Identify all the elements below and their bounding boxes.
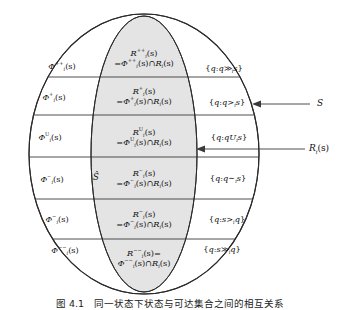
outer-set-callout-label: S	[317, 99, 323, 108]
equals-sign: =	[114, 58, 121, 68]
r-argument: (s)	[145, 168, 156, 178]
r-argument: (s)	[161, 178, 172, 188]
intersection-operator: ∩	[146, 178, 153, 188]
phi-symbol: Φ	[48, 61, 55, 71]
center-line-2: =Φ+i(s)∩Ri(s)	[116, 97, 171, 106]
s-hat-label: Ŝ	[93, 173, 99, 182]
close-brace: }	[240, 97, 245, 107]
phi-superscript: −−	[58, 244, 67, 250]
equals-sign: =	[116, 137, 123, 147]
phi-argument: (s)	[55, 92, 66, 102]
phi-superscript: +	[130, 95, 134, 101]
phi-symbol: Φ	[42, 92, 49, 102]
phi-symbol: Φ	[40, 174, 47, 184]
close-brace: }	[241, 173, 246, 183]
phi-superscript: −	[52, 213, 56, 219]
close-brace: }	[238, 63, 243, 73]
center-line-1: R+i(s)	[133, 86, 156, 96]
row-center-formula-dispreference: R−i(s) =Φ−i(s)∩Ri(s)	[116, 210, 171, 229]
row-right-set-strong-preference: {q:q≫is}	[205, 64, 243, 73]
center-line-1: RUi(s)	[133, 127, 156, 137]
r-argument: (s)	[163, 58, 174, 68]
intersection-operator: ∩	[146, 219, 153, 229]
center-line-2: Φ−−i(s)∩Ri(s)	[118, 259, 171, 268]
row-center-formula-strong-dispreference: R−−i(s)= Φ−−i(s)∩Ri(s)	[118, 249, 171, 268]
phi-argument: (s)	[53, 174, 64, 184]
phi-superscript: U	[45, 131, 49, 137]
intersection-operator: ∩	[146, 96, 153, 106]
r-superscript: −	[139, 208, 143, 214]
row-center-formula-uncertain: RUi(s) =ΦUi(s)∩Ri(s)	[116, 128, 171, 147]
phi-argument: (s)	[51, 132, 62, 142]
r-argument: (s)	[143, 248, 154, 258]
row-left-label-uncertain: ΦUi(s)	[38, 133, 61, 142]
row-left-label-strong-dispreference: Φ−−i(s)	[51, 246, 78, 255]
row-right-set-uncertain: {q:qUis}	[211, 133, 247, 142]
outer-callout-arrow	[252, 101, 310, 108]
r-argument: (s)	[161, 96, 172, 106]
close-brace: }	[236, 244, 241, 254]
phi-superscript: ++	[55, 60, 64, 66]
r-argument: (s)	[145, 127, 156, 137]
phi-superscript: +	[49, 91, 53, 97]
phi-symbol: Φ	[123, 96, 130, 106]
equals-sign: =	[116, 178, 123, 188]
r-argument: (s)	[161, 137, 172, 147]
row-right-set-indifference: {q:q∼is}	[210, 174, 246, 183]
intersection-operator: ∩	[146, 137, 153, 147]
r-argument: (s)	[161, 219, 172, 229]
phi-superscript: ∼	[130, 177, 134, 183]
center-line-1: R−i(s)	[133, 209, 156, 219]
phi-symbol: Φ	[123, 137, 130, 147]
phi-superscript: ++	[128, 57, 137, 63]
phi-symbol: Φ	[121, 58, 128, 68]
row-left-label-dispreference: Φ−i(s)	[45, 215, 68, 224]
r-superscript: −−	[133, 247, 142, 253]
phi-symbol: Φ	[123, 178, 130, 188]
center-line-2: =ΦUi(s)∩Ri(s)	[116, 138, 171, 147]
row-left-label-strong-preference: Φ++i(s)	[48, 62, 75, 71]
phi-argument: (s)	[136, 219, 147, 229]
row-center-formula-indifference: R∼i(s) =Φ∼i(s)∩Ri(s)	[116, 169, 171, 188]
row-right-set-dispreference: {q:s>iq}	[209, 215, 245, 224]
phi-symbol: Φ	[123, 219, 130, 229]
phi-argument: (s)	[135, 258, 146, 268]
phi-symbol: Φ	[51, 245, 58, 255]
equals-sign: =	[116, 219, 123, 229]
r-symbol: R	[309, 143, 316, 153]
center-line-1: R∼i(s)	[133, 168, 156, 178]
equals-sign: =	[116, 96, 123, 106]
row-right-set-preference: {q:q>is}	[209, 98, 245, 107]
figure-caption: 图 4.1 同一状态下状态与可达集合之间的相互关系	[0, 296, 340, 310]
row-right-set-strong-dispreference: {q:s≫iq}	[203, 245, 241, 254]
row-center-formula-preference: R+i(s) =Φ+i(s)∩Ri(s)	[116, 87, 171, 106]
phi-symbol: Φ	[38, 132, 45, 142]
center-line-2: =Φ++i(s)∩Ri(s)	[114, 59, 174, 68]
r-superscript: +	[139, 85, 143, 91]
phi-argument: (s)	[65, 61, 76, 71]
row-left-label-indifference: Φ∼i(s)	[40, 175, 63, 184]
phi-argument: (s)	[136, 137, 147, 147]
r-argument: (s)	[160, 258, 171, 268]
row-center-formula-strong-preference: R++i(s) =Φ++i(s)∩Ri(s)	[114, 49, 174, 68]
phi-superscript: ∼	[47, 173, 51, 179]
phi-argument: (s)	[138, 58, 149, 68]
center-line-2: =Φ−i(s)∩Ri(s)	[116, 220, 171, 229]
inner-set-callout-label: Ri(s)	[309, 144, 329, 153]
phi-argument: (s)	[68, 245, 79, 255]
r-superscript: ++	[137, 47, 146, 53]
r-argument: (s)	[317, 143, 329, 153]
phi-argument: (s)	[136, 178, 147, 188]
close-brace: }	[242, 132, 247, 142]
phi-superscript: −−	[124, 257, 133, 263]
row-left-label-preference: Φ+i(s)	[42, 93, 65, 102]
phi-symbol: Φ	[118, 258, 125, 268]
phi-symbol: Φ	[45, 214, 52, 224]
r-argument: (s)	[147, 48, 158, 58]
r-argument: (s)	[145, 86, 156, 96]
r-superscript: U	[139, 126, 143, 132]
r-argument: (s)	[145, 209, 156, 219]
center-line-2: =Φ∼i(s)∩Ri(s)	[116, 179, 171, 188]
